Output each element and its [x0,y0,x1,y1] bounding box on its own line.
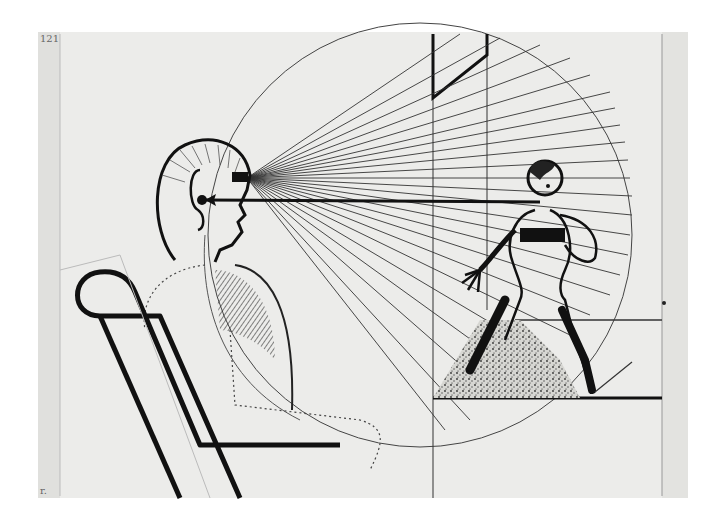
standing-figure-eye [546,184,550,188]
paper-sheet [38,32,688,498]
standing-figure-chest-band [520,228,565,242]
paper-right-edge [662,32,688,498]
corner-mark-top-left: 121 [40,33,59,44]
seated-figure-eye [232,172,248,182]
seated-figure-ear-dot [197,195,207,205]
artwork-canvas [0,0,713,529]
paper-left-edge [38,32,60,498]
corner-mark-bottom-left: r. [40,485,47,496]
main-sightline [205,200,540,202]
paper-mark [662,301,666,305]
